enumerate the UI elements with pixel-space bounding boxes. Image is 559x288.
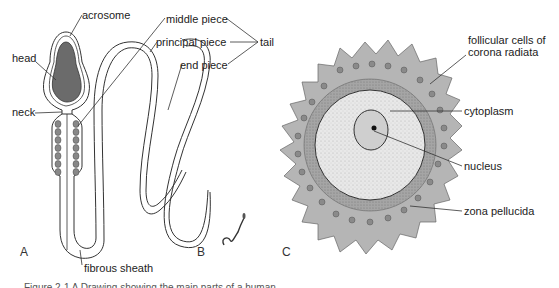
figure-caption: Figure 2-1 A Drawing showing the main pa… [24,281,276,288]
label-middle-piece: middle piece [166,13,228,25]
label-acrosome: acrosome [82,9,130,21]
panel-label-a: A [20,245,28,259]
label-zona-pellucida: zona pellucida [464,205,534,217]
panel-label-c: C [282,245,291,259]
label-neck: neck [12,106,35,118]
label-tail: tail [260,36,274,48]
oocyte-diagram-c [280,40,462,254]
panel-label-b: B [197,245,205,259]
label-end-piece: end piece [180,59,228,71]
label-follicular-cells-line1: follicular cells of [468,34,546,46]
label-cytoplasm: cytoplasm [464,105,514,117]
label-principal-piece: principal piece [156,36,226,48]
label-nucleus: nucleus [464,160,502,172]
label-fibrous-sheath: fibrous sheath [84,262,153,274]
label-follicular-cells-line2: corona radiata [468,46,538,58]
label-head: head [12,52,36,64]
